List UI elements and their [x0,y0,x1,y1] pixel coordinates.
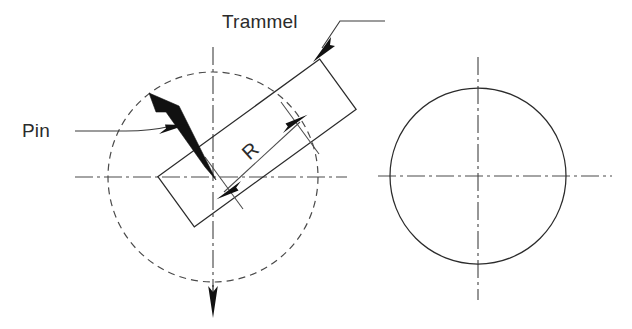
trammel-leader-line [322,21,385,48]
diagram-canvas: R Pin Trammel [0,0,632,329]
right-view-group [378,57,612,300]
left-view-group: R [75,47,356,318]
pin-leader-line [75,126,172,131]
pin-label: Pin [22,120,50,141]
technical-drawing: R Pin Trammel [0,0,632,329]
trammel-rectangle [158,59,356,227]
radius-dimension-line [224,122,300,192]
trammel-bar [158,59,356,227]
radius-dimension [217,115,308,199]
pin-shape [149,93,216,180]
radius-arrowhead-start [217,181,242,199]
trammel-callout [313,21,385,62]
extension-line-inner [205,157,243,209]
trammel-label: Trammel [222,11,298,32]
trammel-leader-arrowhead [313,37,335,62]
pin-callout [75,125,186,135]
